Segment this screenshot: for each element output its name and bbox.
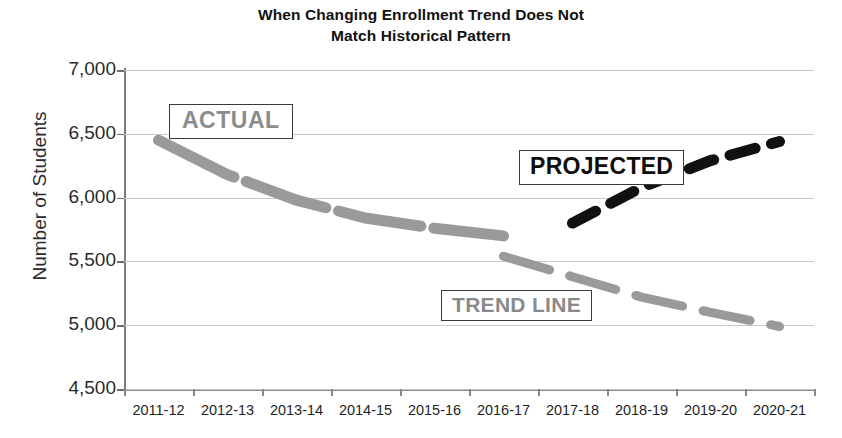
annotation-trend-line-label: TREND LINE bbox=[452, 294, 581, 315]
annotation-projected-label: PROJECTED bbox=[530, 155, 673, 178]
series-line-actual bbox=[159, 140, 504, 236]
annotation-actual-label: ACTUAL bbox=[182, 109, 280, 132]
enrollment-trend-chart: When Changing Enrollment Trend Does Not … bbox=[0, 0, 842, 438]
series-layer bbox=[0, 0, 842, 438]
annotation-trend-line: TREND LINE bbox=[441, 290, 592, 321]
annotation-actual: ACTUAL bbox=[169, 104, 293, 139]
annotation-projected: PROJECTED bbox=[519, 150, 684, 185]
